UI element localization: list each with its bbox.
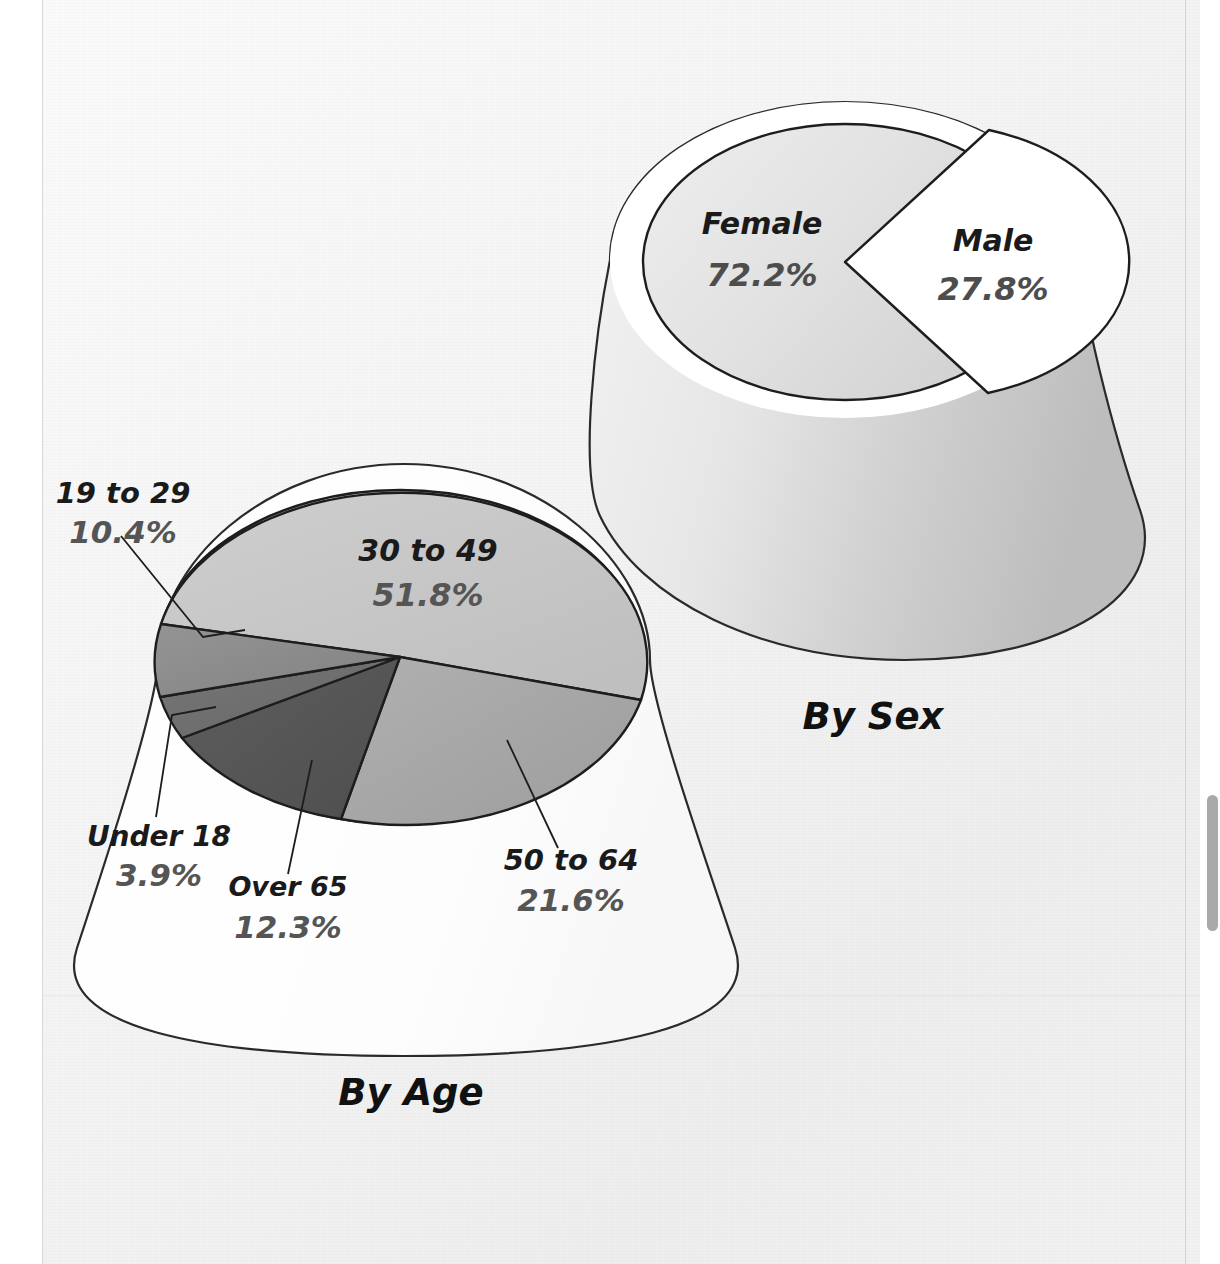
by-sex-female-label: Female (702, 206, 823, 241)
female-value: 72.2% (706, 256, 817, 294)
under18-name: Under 18 (87, 820, 231, 853)
by-age-over65-label: Over 65 (228, 871, 347, 902)
by-age-50to64-value: 21.6% (517, 882, 625, 918)
by-sex-title-text: By Sex (803, 695, 945, 738)
by-age-under18-value: 3.9% (116, 857, 202, 893)
by-age-title-text: By Age (338, 1071, 483, 1114)
under18-value: 3.9% (116, 857, 202, 893)
a50to64-value: 21.6% (517, 882, 625, 918)
by-age-over65-value: 12.3% (234, 909, 342, 945)
by-sex-chart: Female 72.2% Male 27.8% By Sex (590, 102, 1145, 738)
by-age-30to49-label: 30 to 49 (358, 533, 497, 568)
by-age-19to29-value: 10.4% (69, 514, 177, 550)
by-sex-female-value: 72.2% (706, 256, 817, 294)
by-sex-male-label: Male (953, 223, 1034, 258)
by-age-50to64-label: 50 to 64 (504, 843, 639, 877)
charts-illustration: Female 72.2% Male 27.8% By Sex (0, 0, 1220, 1264)
by-age-under18-label: Under 18 (87, 820, 231, 853)
by-age-30to49-value: 51.8% (372, 576, 483, 614)
a30to49-value: 51.8% (372, 576, 483, 614)
a19to29-value: 10.4% (69, 514, 177, 550)
a30to49-name: 30 to 49 (358, 533, 497, 568)
by-sex-title: By Sex (803, 695, 945, 738)
by-sex-male-value: 27.8% (937, 270, 1048, 308)
scrollbar-thumb[interactable] (1207, 795, 1218, 931)
male-name: Male (953, 223, 1034, 258)
over65-name: Over 65 (228, 871, 347, 902)
female-name: Female (702, 206, 823, 241)
a50to64-name: 50 to 64 (504, 843, 639, 877)
a19to29-name: 19 to 29 (56, 476, 191, 510)
over65-value: 12.3% (234, 909, 342, 945)
by-age-19to29-label: 19 to 29 (56, 476, 191, 510)
scrollbar-track[interactable] (1206, 0, 1220, 1264)
by-age-title: By Age (338, 1071, 483, 1114)
male-value: 27.8% (937, 270, 1048, 308)
page-root: Female 72.2% Male 27.8% By Sex (0, 0, 1220, 1264)
